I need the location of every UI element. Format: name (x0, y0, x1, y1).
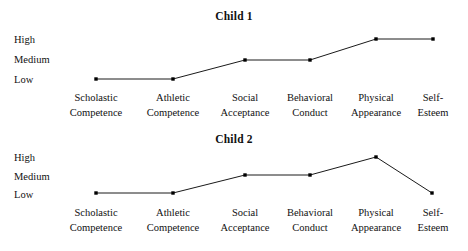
x-tick-self-esteem: Self- Esteem (394, 205, 468, 235)
x-tick-scholastic-competence: Scholastic Competence (52, 205, 140, 235)
x-tick-self-esteem: Self- Esteem (394, 90, 468, 120)
x-tick-scholastic-competence: Scholastic Competence (52, 90, 140, 120)
chart-child-2: Child 2 High Medium Low Scholastic Compe… (0, 125, 468, 251)
chart-child-1: Child 1 High Medium Low Scholastic Compe… (0, 0, 468, 126)
data-markers-child-1 (94, 37, 434, 80)
x-axis-child-2: Scholastic Competence Athletic Competenc… (0, 205, 468, 239)
data-line-child-1 (96, 39, 433, 79)
data-line-child-2 (96, 157, 432, 193)
x-axis-child-1: Scholastic Competence Athletic Competenc… (0, 90, 468, 124)
